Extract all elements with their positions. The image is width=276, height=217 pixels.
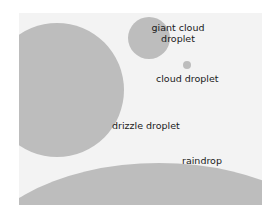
giant-cloud-label-line1: giant cloud: [147, 22, 209, 33]
cloud-droplet-label: cloud droplet: [156, 73, 219, 84]
drizzle-droplet-shape: [19, 23, 124, 157]
giant-cloud-droplet-label: giant cloud droplet: [147, 22, 209, 44]
drizzle-droplet-label: drizzle droplet: [112, 120, 180, 131]
raindrop-label: raindrop: [182, 155, 222, 166]
giant-cloud-label-line2: droplet: [147, 33, 209, 44]
diagram-panel: giant cloud droplet cloud droplet drizzl…: [19, 13, 262, 205]
droplet-size-diagram: [19, 13, 262, 205]
cloud-droplet-shape: [183, 61, 191, 69]
raindrop-shape: [19, 163, 262, 205]
